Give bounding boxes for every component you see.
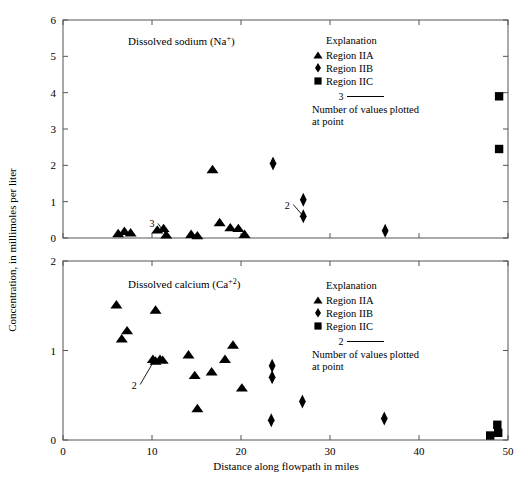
x-tick-label-10: 10 bbox=[147, 445, 159, 457]
legend-marker-triangle-calcium bbox=[313, 297, 322, 304]
data-point-calcium-square-0 bbox=[486, 431, 494, 439]
y-tick-label-sodium-0: 0 bbox=[51, 232, 57, 244]
x-tick-label-0: 0 bbox=[60, 445, 66, 457]
chart-panel-calcium: 01020304050012Dissolved calcium (Ca+2)Ex… bbox=[51, 255, 515, 457]
y-tick-label-calcium-0: 0 bbox=[51, 434, 57, 446]
legend-marker-square-sodium bbox=[314, 77, 321, 84]
data-point-calcium-diamond-2 bbox=[268, 413, 275, 427]
legend-sodium: ExplanationRegion IIARegion IIBRegion II… bbox=[312, 35, 420, 127]
series-calcium-square bbox=[486, 421, 502, 440]
legend-note-line2-calcium: at point bbox=[312, 361, 344, 372]
data-point-calcium-triangle-13 bbox=[227, 340, 239, 348]
data-point-calcium-triangle-14 bbox=[236, 383, 248, 391]
data-point-calcium-diamond-4 bbox=[381, 412, 388, 426]
data-point-sodium-square-1 bbox=[495, 145, 503, 153]
x-tick-label-50: 50 bbox=[503, 445, 515, 457]
data-point-calcium-square-1 bbox=[493, 421, 501, 429]
y-tick-label-calcium-1: 1 bbox=[51, 345, 57, 357]
panel-title-end-calcium: ) bbox=[237, 278, 241, 291]
y-tick-label-sodium-2: 2 bbox=[51, 159, 57, 171]
data-point-calcium-triangle-1 bbox=[116, 334, 128, 342]
y-tick-label-sodium-5: 5 bbox=[51, 50, 57, 62]
x-axis-label: Distance along flowpath in miles bbox=[213, 460, 358, 472]
data-point-calcium-square-2 bbox=[494, 429, 502, 437]
legend-marker-triangle-sodium bbox=[313, 52, 322, 59]
x-tick-label-40: 40 bbox=[414, 445, 426, 457]
data-point-calcium-triangle-8 bbox=[182, 350, 194, 358]
panel-title-calcium: Dissolved calcium (Ca+2) bbox=[128, 277, 241, 291]
series-sodium-square bbox=[495, 92, 503, 153]
legend-label-calcium-2: Region IIC bbox=[326, 321, 373, 332]
y-tick-label-sodium-6: 6 bbox=[51, 14, 57, 26]
legend-title-calcium: Explanation bbox=[326, 280, 377, 291]
data-point-sodium-diamond-1 bbox=[300, 193, 307, 207]
data-point-calcium-triangle-2 bbox=[121, 326, 133, 334]
annotation-label-calcium-0: 2 bbox=[132, 380, 137, 391]
data-point-calcium-triangle-3 bbox=[150, 305, 162, 313]
chart-panel-sodium: 0123456Dissolved sodium (Na+)Explanation… bbox=[51, 14, 509, 244]
data-point-sodium-square-0 bbox=[495, 92, 503, 100]
annotation-label-sodium-1: 2 bbox=[285, 200, 290, 211]
data-point-sodium-diamond-3 bbox=[382, 224, 389, 238]
panel-title-superscript-calcium: +2 bbox=[228, 277, 237, 286]
scatter-figure: 0123456Dissolved sodium (Na+)Explanation… bbox=[0, 0, 524, 489]
data-point-sodium-triangle-11 bbox=[232, 224, 244, 232]
data-point-sodium-diamond-2 bbox=[300, 209, 307, 223]
legend-marker-square-calcium bbox=[314, 322, 321, 329]
data-point-sodium-diamond-0 bbox=[270, 157, 277, 171]
panel-title-sodium: Dissolved sodium (Na+) bbox=[128, 34, 235, 48]
legend-count-sodium: 3 bbox=[339, 91, 344, 102]
legend-calcium: ExplanationRegion IIARegion IIBRegion II… bbox=[312, 280, 420, 372]
x-tick-label-30: 30 bbox=[325, 445, 337, 457]
data-point-calcium-triangle-11 bbox=[206, 367, 218, 375]
y-tick-label-calcium-2: 2 bbox=[51, 255, 57, 267]
panel-title-end-sodium: ) bbox=[231, 35, 235, 48]
series-sodium-triangle bbox=[112, 165, 250, 240]
data-point-calcium-triangle-9 bbox=[189, 371, 201, 379]
data-point-calcium-diamond-1 bbox=[269, 370, 276, 384]
data-point-calcium-diamond-3 bbox=[299, 395, 306, 409]
y-axis-label: Concentration, in millimoles per liter bbox=[6, 168, 18, 332]
annotation-label-sodium-0: 3 bbox=[150, 218, 155, 229]
y-tick-label-sodium-4: 4 bbox=[51, 87, 57, 99]
legend-label-calcium-0: Region IIA bbox=[326, 295, 374, 306]
legend-title-sodium: Explanation bbox=[326, 35, 377, 46]
legend-count-calcium: 2 bbox=[339, 336, 344, 347]
legend-label-sodium-0: Region IIA bbox=[326, 50, 374, 61]
legend-marker-diamond-sodium bbox=[315, 63, 321, 73]
x-tick-label-20: 20 bbox=[236, 445, 248, 457]
y-tick-label-sodium-1: 1 bbox=[51, 196, 57, 208]
figure-container: 0123456Dissolved sodium (Na+)Explanation… bbox=[0, 0, 524, 489]
data-point-sodium-triangle-8 bbox=[207, 165, 219, 173]
data-point-calcium-triangle-12 bbox=[219, 355, 231, 363]
data-point-sodium-triangle-9 bbox=[214, 218, 226, 226]
data-point-calcium-triangle-10 bbox=[191, 404, 203, 412]
legend-note-line1-calcium: Number of values plotted bbox=[312, 349, 420, 360]
data-point-calcium-triangle-0 bbox=[110, 300, 122, 308]
legend-note-line2-sodium: at point bbox=[312, 116, 344, 127]
series-sodium-diamond bbox=[270, 157, 389, 238]
legend-label-calcium-1: Region IIB bbox=[326, 308, 373, 319]
legend-label-sodium-1: Region IIB bbox=[326, 63, 373, 74]
series-calcium-triangle bbox=[110, 300, 247, 412]
legend-note-line1-sodium: Number of values plotted bbox=[312, 104, 420, 115]
legend-label-sodium-2: Region IIC bbox=[326, 76, 373, 87]
legend-marker-diamond-calcium bbox=[315, 308, 321, 318]
y-tick-label-sodium-3: 3 bbox=[51, 123, 57, 135]
